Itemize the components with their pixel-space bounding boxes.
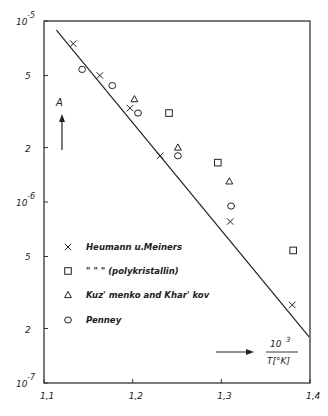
x-axis-arrowhead-icon <box>246 349 254 355</box>
square-marker-icon <box>290 247 297 254</box>
x-label-exponent: 3 <box>286 336 290 344</box>
circle-marker-icon <box>228 203 235 209</box>
square-marker-icon <box>166 110 173 117</box>
triangle-marker-icon <box>131 96 138 102</box>
x-marker-icon <box>227 218 233 224</box>
x-marker-icon <box>157 153 163 159</box>
circle-marker-icon <box>174 153 181 159</box>
y-tick-label: 5 <box>25 71 31 81</box>
triangle-marker-icon <box>174 144 181 150</box>
y-tick-label: 2 <box>25 325 31 335</box>
plot-frame <box>44 21 310 383</box>
x-label-denominator: T[°K] <box>267 356 290 366</box>
y-tick-label: 2 <box>25 144 31 154</box>
y-tick-label: 10 <box>16 17 28 27</box>
triangle-marker-icon <box>65 291 72 297</box>
legend-label: Penney <box>86 315 122 325</box>
y-tick-exponent: -5 <box>27 11 35 20</box>
circle-marker-icon <box>135 110 142 116</box>
x-marker-icon <box>289 302 295 308</box>
y-tick-label: 5 <box>25 252 31 262</box>
x-marker-icon <box>127 105 133 111</box>
x-tick-label: 1,2 <box>129 391 144 401</box>
legend-label: " " " (polykristallin) <box>86 266 179 276</box>
x-tick-label: 1,1 <box>40 391 54 401</box>
y-tick-label: 10 <box>16 198 28 208</box>
x-marker-icon <box>70 40 76 46</box>
legend-label: Heumann u.Meiners <box>86 242 182 252</box>
axis-labels: A 10 3 T[°K] <box>55 97 298 366</box>
y-tick-exponent: -7 <box>27 373 36 382</box>
y-axis-label: A <box>55 97 63 108</box>
legend-label: Kuz' menko and Khar' kov <box>86 290 210 300</box>
y-tick-exponent: -6 <box>27 192 35 201</box>
plot-axes <box>44 21 310 383</box>
square-marker-icon <box>214 159 221 166</box>
x-tick-label: 1,3 <box>217 391 232 401</box>
arrhenius-plot: 1,11,21,31,410-55210-65210-7 Heumann u.M… <box>0 0 328 416</box>
legend: Heumann u.Meiners" " " (polykristallin)K… <box>65 242 210 325</box>
x-label-numerator: 10 <box>270 339 282 349</box>
circle-marker-icon <box>109 82 116 88</box>
triangle-marker-icon <box>226 178 233 184</box>
x-marker-icon <box>65 244 71 250</box>
circle-marker-icon <box>65 317 72 323</box>
x-tick-label: 1,4 <box>306 391 321 401</box>
y-tick-label: 10 <box>16 379 28 389</box>
circle-marker-icon <box>79 66 86 72</box>
square-marker-icon <box>65 268 72 275</box>
y-axis-arrowhead-icon <box>59 114 65 122</box>
x-marker-icon <box>97 72 103 78</box>
